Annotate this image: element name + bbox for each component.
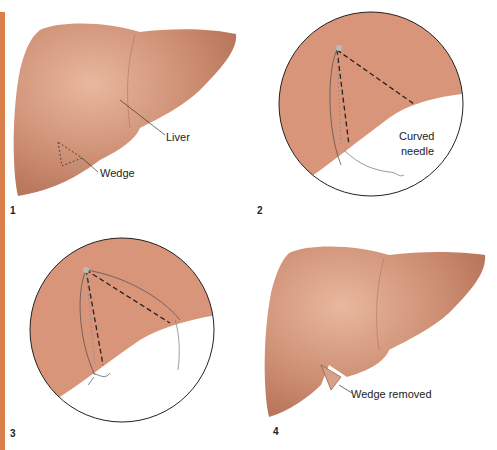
panel-2-needle: Curved needle 2 xyxy=(249,0,497,225)
label-needle: needle xyxy=(401,145,434,158)
liver-illustration xyxy=(249,225,497,450)
step-number: 4 xyxy=(273,426,279,437)
panel-3-sutures-tied: 3 xyxy=(0,225,248,450)
step-number: 2 xyxy=(257,205,263,216)
zoom-circle-illustration xyxy=(249,0,497,225)
label-curved: Curved xyxy=(399,130,434,143)
label-wedge-removed: Wedge removed xyxy=(351,388,432,401)
liver-illustration xyxy=(0,0,248,225)
zoom-circle-illustration xyxy=(0,225,248,450)
step-number: 1 xyxy=(10,205,16,216)
step-number: 3 xyxy=(10,428,16,439)
panel-1-liver-wedge: Liver Wedge 1 xyxy=(0,0,248,225)
label-liver: Liver xyxy=(166,131,190,144)
panel-4-wedge-removed: Wedge removed 4 xyxy=(249,225,497,450)
label-wedge: Wedge xyxy=(100,167,135,180)
